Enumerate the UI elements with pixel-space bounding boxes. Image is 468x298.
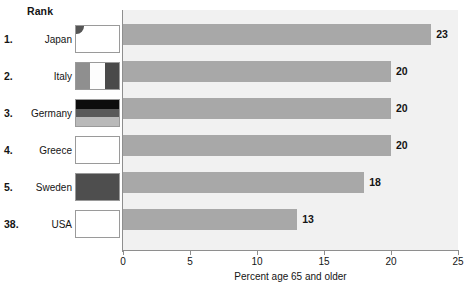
bar-value-label: 20	[396, 98, 408, 119]
bar[interactable]	[123, 172, 364, 193]
bar-value-label: 18	[369, 172, 381, 193]
x-tick	[123, 250, 124, 255]
bar-value-label: 13	[302, 209, 314, 230]
usa-flag-icon	[75, 210, 120, 238]
greece-flag-icon	[75, 136, 120, 164]
bar[interactable]	[123, 24, 431, 45]
bar-value-label: 23	[436, 24, 448, 45]
country-name: Sweden	[36, 182, 72, 193]
x-tick-label: 20	[385, 256, 396, 267]
bar[interactable]	[123, 135, 391, 156]
x-tick	[190, 250, 191, 255]
rank-column-header: Rank	[27, 5, 53, 17]
rank-number: 2.	[4, 70, 13, 82]
x-tick-label: 5	[187, 256, 193, 267]
rank-number: 4.	[4, 144, 13, 156]
germany-flag-icon	[75, 99, 120, 127]
list-item: 4. Greece	[0, 133, 122, 167]
x-axis-title: Percent age 65 and older	[123, 271, 458, 282]
rank-number: 1.	[4, 33, 13, 45]
x-tick	[458, 250, 459, 255]
sweden-flag-icon	[75, 173, 120, 201]
list-item: 38. USA	[0, 207, 122, 241]
japan-sun-disc-icon	[75, 25, 84, 34]
x-tick	[391, 250, 392, 255]
x-tick	[324, 250, 325, 255]
x-tick-label: 0	[120, 256, 126, 267]
italy-flag-icon	[75, 62, 120, 90]
rank-number: 3.	[4, 107, 13, 119]
list-item: 3. Germany	[0, 96, 122, 130]
x-axis-line	[122, 250, 458, 251]
x-tick	[257, 250, 258, 255]
country-name: Germany	[31, 108, 72, 119]
japan-flag-icon	[75, 25, 120, 53]
list-item: 1. Japan	[0, 22, 122, 56]
x-tick-label: 15	[318, 256, 329, 267]
bar[interactable]	[123, 98, 391, 119]
x-tick-label: 10	[251, 256, 262, 267]
bar[interactable]	[123, 209, 297, 230]
list-item: 5. Sweden	[0, 170, 122, 204]
bar-value-label: 20	[396, 135, 408, 156]
country-label-column: 1. Japan 2. Italy 3. Germany 4. Greece 5…	[0, 22, 122, 244]
list-item: 2. Italy	[0, 59, 122, 93]
bar[interactable]	[123, 61, 391, 82]
country-name: Greece	[39, 145, 72, 156]
rank-number: 38.	[4, 218, 19, 230]
country-name: Italy	[54, 71, 72, 82]
country-name: USA	[51, 219, 72, 230]
country-name: Japan	[45, 34, 72, 45]
bar-value-label: 20	[396, 61, 408, 82]
x-tick-label: 25	[452, 256, 463, 267]
rank-number: 5.	[4, 181, 13, 193]
